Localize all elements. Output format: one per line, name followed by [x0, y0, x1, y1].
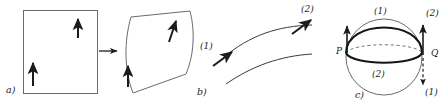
- panel-b-lower-curve: [226, 54, 312, 84]
- panel-c-group: [346, 19, 423, 95]
- point-q-label: Q: [431, 49, 438, 58]
- path-1-upper-arc: [346, 28, 422, 54]
- panel-a-source-rectangle: [24, 11, 98, 94]
- panel-b-label-2: (2): [301, 5, 314, 14]
- sphere-outline: [346, 19, 422, 95]
- panel-b-label-1: (1): [200, 42, 213, 51]
- panel-b-vector-1: [213, 52, 232, 66]
- panel-a-target-patch: [126, 11, 193, 93]
- patch-vector-upper-right: [169, 21, 176, 42]
- point-p-label: P: [336, 47, 342, 56]
- panel-b-vector-2: [292, 20, 311, 34]
- panel-label-a: a): [6, 85, 15, 95]
- equator-back-dashed: [346, 45, 422, 53]
- panel-b-group: [213, 20, 312, 84]
- path-2-equatorial-arc: [346, 53, 422, 63]
- panel-label-b: b): [197, 87, 207, 97]
- panel-c-path-2-label: (2): [372, 70, 385, 79]
- figure-canvas: [0, 0, 448, 109]
- panel-a-group: [24, 11, 194, 94]
- panel-label-c: c): [355, 90, 364, 100]
- parallel-transport-figure: a) b) c) (1) (2) (1) (2) (2) (1) P Q: [0, 0, 448, 109]
- panel-c-vector-2-label: (2): [426, 9, 439, 18]
- panel-c-vector-1-label: (1): [425, 88, 438, 97]
- panel-c-path-1-label: (1): [374, 7, 387, 16]
